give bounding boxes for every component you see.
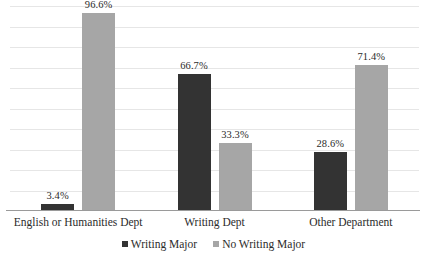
bar-no-writing-major [219, 143, 252, 211]
bar-value-label: 33.3% [209, 129, 261, 141]
legend-label: Writing Major [131, 237, 197, 251]
legend-entry[interactable]: No Writing Major [213, 237, 305, 251]
bar-no-writing-major [355, 65, 388, 211]
bar-value-label: 96.6% [73, 0, 125, 11]
bar-no-writing-major [82, 13, 115, 211]
legend-label: No Writing Major [222, 237, 305, 251]
bar-value-label: 66.7% [168, 60, 220, 72]
bar-chart: 3.4%96.6%66.7%33.3%28.6%71.4% English or… [0, 0, 427, 257]
legend-entry[interactable]: Writing Major [122, 237, 197, 251]
x-axis-category-labels: English or Humanities DeptWriting DeptOt… [0, 213, 427, 233]
bar-writing-major [178, 74, 211, 211]
legend-swatch-icon [122, 241, 128, 247]
bar-value-label: 28.6% [304, 138, 356, 150]
category-label: Other Department [271, 213, 427, 231]
x-axis-line [6, 210, 420, 211]
bar-value-label: 71.4% [345, 51, 397, 63]
bar-value-label: 3.4% [32, 190, 84, 202]
gridline [10, 6, 419, 7]
gridline [10, 27, 419, 28]
legend-swatch-icon [213, 241, 219, 247]
chart-legend: Writing MajorNo Writing Major [0, 235, 427, 253]
gridline [10, 47, 419, 48]
bar-writing-major [314, 152, 347, 211]
plot-area: 3.4%96.6%66.7%33.3%28.6%71.4% [10, 6, 419, 211]
